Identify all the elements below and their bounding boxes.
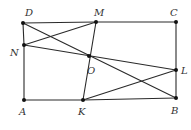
point-label-b: B [170,105,178,116]
point-label-d: D [24,7,33,18]
point-label-o: O [87,65,95,76]
segment-dn [23,23,24,45]
segment-mk [83,22,96,100]
point-l [174,68,178,72]
geometry-diagram: DMCNOLAKB [0,0,191,130]
segment-kb [83,98,176,100]
segment-db [23,23,176,98]
point-label-m: M [93,7,105,18]
point-label-n: N [9,47,20,58]
point-a [22,98,26,102]
point-k [81,98,85,102]
segment-nl [24,45,176,70]
point-b [174,96,178,100]
segment-kl [83,70,176,100]
point-label-a: A [18,106,26,117]
point-d [21,21,25,25]
point-c [174,20,178,24]
point-label-c: C [170,7,178,18]
point-label-l: L [180,65,188,76]
point-m [94,20,98,24]
segments-group [23,22,176,100]
point-n [22,43,26,47]
point-label-k: K [77,106,86,117]
segment-dm [23,22,96,23]
point-o [87,54,91,58]
